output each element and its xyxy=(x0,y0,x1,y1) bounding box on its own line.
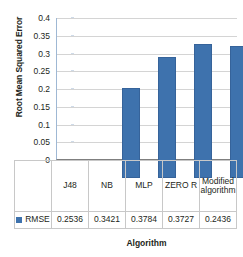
legend-label-rmse: RMSE xyxy=(25,215,50,225)
legend-entry-rmse: RMSE xyxy=(15,212,52,229)
value-cell-modified-algorithm: 0.2436 xyxy=(200,212,237,229)
category-label-nb: NB xyxy=(89,161,126,212)
value-cell-nb: 0.3421 xyxy=(89,212,126,229)
bar-slot xyxy=(149,36,185,178)
y-axis-tick-label: 0.4 xyxy=(38,14,50,23)
category-label-mlp: MLP xyxy=(126,161,163,212)
category-row: J48NBMLPZERO RModified algorithm xyxy=(15,161,237,212)
plot-area-wrapper xyxy=(56,18,237,160)
bar-mlp[interactable] xyxy=(194,44,212,178)
value-cell-mlp: 0.3784 xyxy=(126,212,163,229)
y-axis-tick-labels: 0.40.350.30.250.20.150.10.050 xyxy=(20,18,53,160)
y-axis-tick-label: 0.2 xyxy=(38,85,50,94)
value-cell-j48: 0.2536 xyxy=(52,212,89,229)
value-cell-zero-r: 0.3727 xyxy=(163,212,200,229)
y-axis-tick-label: 0.15 xyxy=(33,102,50,111)
bar-zero-r[interactable] xyxy=(230,46,243,178)
category-label-zero-r: ZERO R xyxy=(163,161,200,212)
legend-swatch-rmse xyxy=(16,217,22,223)
category-label-modified-algorithm: Modified algorithm xyxy=(200,161,237,212)
bar-slot xyxy=(221,36,243,178)
value-row: RMSE 0.25360.34210.37840.37270.2436 xyxy=(15,212,237,229)
bar-series-rmse xyxy=(113,36,243,178)
y-axis-tick-label: 0.05 xyxy=(33,138,50,147)
category-row-spacer xyxy=(15,161,52,212)
x-axis-title: Algorithm xyxy=(56,238,237,248)
bar-slot xyxy=(185,36,221,178)
gridline xyxy=(57,18,237,19)
bar-chart: Root Mean Squared Error 0.40.350.30.250.… xyxy=(0,0,243,257)
y-axis-tick-label: 0.1 xyxy=(38,120,50,129)
bar-slot xyxy=(113,36,149,178)
y-axis-tick-label: 0.3 xyxy=(38,49,50,58)
data-table: J48NBMLPZERO RModified algorithm RMSE 0.… xyxy=(14,160,237,229)
y-axis-tick-label: 0.25 xyxy=(33,67,50,76)
category-label-j48: J48 xyxy=(52,161,89,212)
y-axis-tick-label: 0.35 xyxy=(33,31,50,40)
